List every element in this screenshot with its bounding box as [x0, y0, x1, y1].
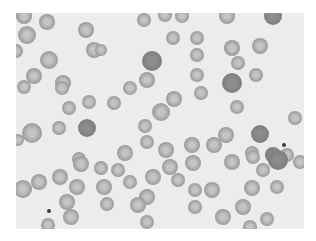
red-blood-cell	[231, 56, 245, 70]
red-blood-cell	[16, 180, 32, 198]
red-blood-cell	[158, 142, 174, 158]
red-blood-cell	[107, 96, 121, 110]
red-blood-cell	[175, 13, 189, 23]
red-blood-cell	[204, 182, 220, 198]
red-blood-cell	[63, 209, 79, 225]
red-blood-cell	[137, 13, 151, 27]
red-blood-cell	[249, 68, 263, 82]
red-blood-cell	[246, 150, 260, 164]
dark-red-blood-cell	[268, 150, 288, 170]
red-blood-cell	[190, 31, 204, 45]
dark-red-blood-cell	[142, 51, 162, 71]
red-blood-cell	[188, 183, 202, 197]
red-blood-cell	[166, 91, 182, 107]
red-blood-cell	[130, 197, 146, 213]
red-blood-cell	[152, 103, 170, 121]
red-blood-cell	[95, 44, 107, 56]
red-blood-cell	[224, 40, 240, 56]
red-blood-cell	[62, 101, 76, 115]
red-blood-cell	[206, 137, 222, 153]
red-blood-cell	[31, 174, 47, 190]
red-blood-cell	[243, 220, 257, 229]
red-blood-cell	[22, 123, 42, 143]
red-blood-cell	[16, 134, 24, 146]
red-blood-cell	[256, 163, 270, 177]
red-blood-cell	[244, 180, 260, 196]
dark-red-blood-cell	[264, 13, 282, 25]
red-blood-cell	[140, 135, 154, 149]
red-blood-cell	[188, 200, 202, 214]
red-blood-cell	[18, 26, 36, 44]
red-blood-cell	[16, 13, 32, 24]
dark-red-blood-cell	[251, 125, 269, 143]
red-blood-cell	[123, 81, 137, 95]
red-blood-cell	[145, 169, 161, 185]
platelet-dot	[47, 209, 51, 213]
red-blood-cell	[16, 44, 23, 58]
red-blood-cell	[140, 215, 154, 229]
red-blood-cell	[100, 197, 114, 211]
red-blood-cell	[52, 121, 66, 135]
blood-smear-micrograph	[16, 13, 304, 229]
red-blood-cell	[123, 175, 137, 189]
red-blood-cell	[215, 209, 231, 225]
red-blood-cell	[184, 137, 200, 153]
red-blood-cell	[41, 218, 55, 229]
red-blood-cell	[139, 72, 155, 88]
red-blood-cell	[111, 163, 125, 177]
red-blood-cell	[260, 212, 274, 226]
red-blood-cell	[293, 155, 304, 169]
red-blood-cell	[94, 161, 108, 175]
red-blood-cell	[288, 111, 302, 125]
dark-red-blood-cell	[222, 73, 242, 93]
red-blood-cell	[270, 180, 284, 194]
red-blood-cell	[190, 68, 204, 82]
red-blood-cell	[69, 179, 85, 195]
red-blood-cell	[138, 119, 152, 133]
red-blood-cell	[252, 38, 268, 54]
red-blood-cell	[230, 100, 244, 114]
red-blood-cell	[185, 155, 201, 171]
red-blood-cell	[40, 51, 58, 69]
red-blood-cell	[78, 22, 94, 38]
red-blood-cell	[158, 13, 172, 22]
red-blood-cell	[96, 179, 112, 195]
dark-red-blood-cell	[78, 119, 96, 137]
red-blood-cell	[224, 154, 240, 170]
red-blood-cell	[73, 156, 89, 172]
red-blood-cell	[39, 14, 55, 30]
red-blood-cell	[59, 194, 75, 210]
red-blood-cell	[190, 48, 204, 62]
red-blood-cell	[52, 169, 68, 185]
red-blood-cell	[117, 145, 133, 161]
red-blood-cell	[17, 80, 31, 94]
red-blood-cell	[219, 13, 235, 24]
red-blood-cell	[194, 86, 208, 100]
platelet-dot	[282, 143, 286, 147]
red-blood-cell	[55, 81, 69, 95]
red-blood-cell	[235, 199, 251, 215]
red-blood-cell	[171, 173, 185, 187]
red-blood-cell	[166, 31, 180, 45]
red-blood-cell	[82, 95, 96, 109]
